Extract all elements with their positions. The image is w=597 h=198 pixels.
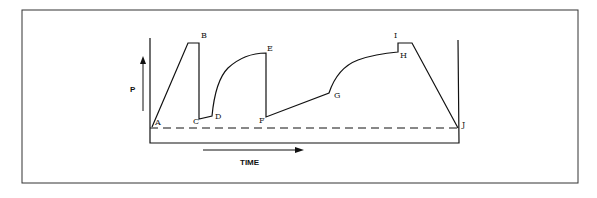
arrow-up-icon xyxy=(140,56,146,64)
point-label-d: D xyxy=(215,112,221,121)
point-label-c: C xyxy=(193,117,199,126)
point-label-i: I xyxy=(394,31,397,40)
vessel-outline xyxy=(150,38,459,143)
point-label-b: B xyxy=(201,31,207,40)
point-label-f: F xyxy=(259,116,265,125)
point-label-g: G xyxy=(334,91,340,100)
point-label-a: A xyxy=(154,118,161,127)
point-label-j: J xyxy=(461,120,465,129)
p-axis-label: P xyxy=(130,85,136,94)
point-label-h: H xyxy=(400,51,407,60)
arrow-right-icon xyxy=(295,147,304,153)
figure-frame xyxy=(22,10,578,183)
pressure-time-diagram: P TIME A B C D E F G H I J xyxy=(0,0,597,198)
pressure-curve xyxy=(152,43,458,128)
time-axis-label: TIME xyxy=(240,158,260,167)
point-label-e: E xyxy=(267,44,273,53)
